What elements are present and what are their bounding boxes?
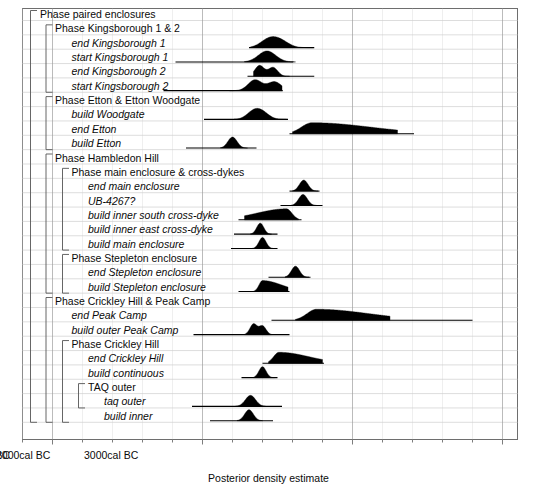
axis-tick-label: 3000cal BC (84, 449, 138, 461)
plot-frame (22, 8, 518, 440)
axis-tick-label: 5000cal BC (0, 449, 10, 461)
axis-tick-label: 2000cal BC (0, 449, 50, 461)
axis-title: Posterior density estimate (0, 472, 537, 484)
chart-canvas: Phase paired enclosuresPhase Kingsboroug… (0, 0, 537, 488)
